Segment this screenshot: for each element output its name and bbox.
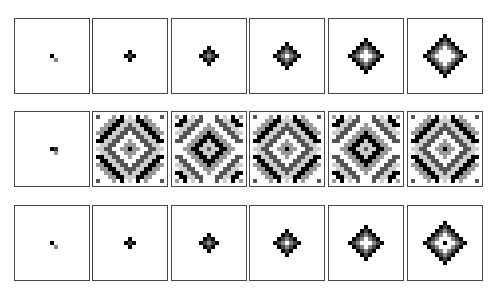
cell-grid: [411, 209, 479, 277]
pattern-panel-r1-c3: [171, 18, 247, 94]
pattern-panel-r3-c6: [407, 205, 483, 281]
pattern-panel-r2-c1: [14, 111, 90, 187]
pattern-panel-r2-c4: [249, 111, 325, 187]
cell-grid: [18, 209, 86, 277]
pattern-panel-r2-c3: [171, 111, 247, 187]
cell-grid: [253, 209, 321, 277]
pattern-panel-r2-c5: [328, 111, 404, 187]
cell-grid: [175, 22, 243, 90]
pattern-panel-r1-c1: [14, 18, 90, 94]
pattern-panel-r2-c2: [92, 111, 168, 187]
pattern-panel-r3-c1: [14, 205, 90, 281]
cell-grid: [332, 22, 400, 90]
cell-grid: [253, 115, 321, 183]
cell-grid: [18, 115, 86, 183]
cell-grid: [175, 115, 243, 183]
cell-grid: [96, 209, 164, 277]
pattern-panel-r2-c6: [407, 111, 483, 187]
pattern-panel-r3-c4: [249, 205, 325, 281]
pattern-panel-r1-c5: [328, 18, 404, 94]
pattern-panel-r1-c6: [407, 18, 483, 94]
cell-grid: [96, 22, 164, 90]
cell-grid: [96, 115, 164, 183]
cell-grid: [332, 209, 400, 277]
cell-grid: [253, 22, 321, 90]
cell-grid: [411, 115, 479, 183]
pattern-panel-r1-c4: [249, 18, 325, 94]
pattern-panel-r3-c5: [328, 205, 404, 281]
pattern-panel-r3-c3: [171, 205, 247, 281]
cell-grid: [18, 22, 86, 90]
cell-grid: [332, 115, 400, 183]
cell-grid: [411, 22, 479, 90]
pattern-panel-r1-c2: [92, 18, 168, 94]
cell-grid: [175, 209, 243, 277]
pattern-panel-r3-c2: [92, 205, 168, 281]
